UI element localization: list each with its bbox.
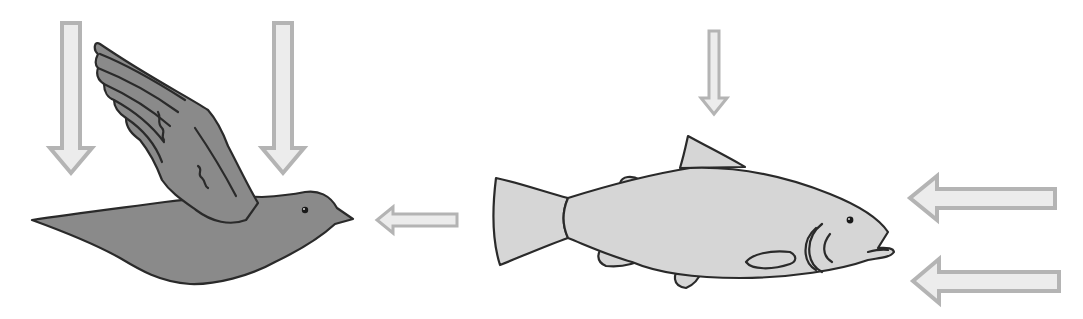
arrow-left-icon [910, 176, 1055, 220]
arrow-left-icon [913, 259, 1059, 303]
energy-flow-diagram: .arrow { fill:#ececec; stroke:#b4b4b4; s… [0, 0, 1083, 319]
arrow-down-icon [701, 31, 727, 114]
arrow-left-icon [377, 207, 457, 233]
arrow-down-icon [262, 23, 304, 173]
fish-illustration [493, 136, 894, 288]
arrow-down-icon [50, 23, 92, 173]
